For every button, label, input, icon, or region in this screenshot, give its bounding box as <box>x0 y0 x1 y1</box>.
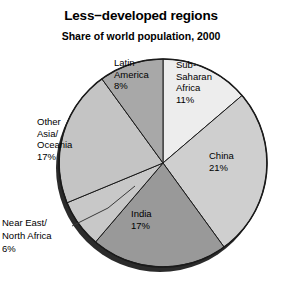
slice-label-near-east-north-africa: Near East/ North Africa 6% <box>2 216 52 255</box>
slice-value: 17% <box>131 220 152 232</box>
slice-label-line: Asia/ <box>37 128 72 140</box>
pie-slice-group <box>59 59 267 267</box>
slice-label-line: Sub- <box>176 59 212 71</box>
slice-value: 11% <box>176 94 212 106</box>
slice-label-line: America <box>114 69 149 81</box>
pie-chart-figure: Less−developed regions Share of world po… <box>0 0 282 285</box>
slice-label-latin-america: Latin America 8% <box>114 57 149 92</box>
slice-label-line: Africa <box>176 82 212 94</box>
slice-label-line: Oceania <box>37 139 72 151</box>
slice-value: 21% <box>209 162 234 174</box>
slice-label-line: India <box>131 208 152 220</box>
slice-value: 6% <box>2 242 52 255</box>
slice-label-line: Other <box>37 116 72 128</box>
slice-label-india: India 17% <box>131 208 152 231</box>
slice-label-line: Near East/ <box>2 216 52 229</box>
slice-label-sub-saharan-africa: Sub- Saharan Africa 11% <box>176 59 212 105</box>
slice-value: 8% <box>114 80 149 92</box>
slice-label-other-asia-oceania: Other Asia/ Oceania 17% <box>37 116 72 162</box>
slice-label-line: Latin <box>114 57 149 69</box>
slice-value: 17% <box>37 151 72 163</box>
slice-label-line: North Africa <box>2 229 52 242</box>
slice-label-china: China 21% <box>209 150 234 173</box>
slice-label-line: Saharan <box>176 71 212 83</box>
slice-label-line: China <box>209 150 234 162</box>
